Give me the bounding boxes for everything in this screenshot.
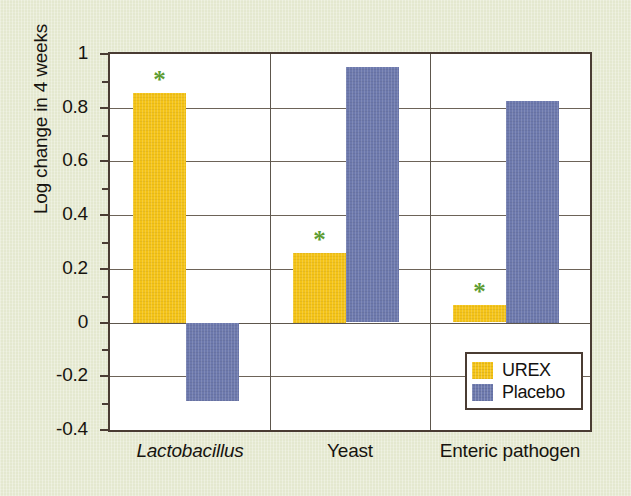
y-tick-label: 0 <box>0 311 88 333</box>
bar-urex-enteric-pathogen <box>453 305 506 322</box>
chart-figure: Log change in 4 weeks -0.4-0.200.20.40.6… <box>0 0 631 496</box>
y-tick-minor <box>102 349 108 351</box>
bar-placebo-lactobacillus <box>186 323 239 401</box>
y-tick-label: 0.4 <box>0 203 88 225</box>
y-tick-major <box>100 107 108 109</box>
y-tick-major <box>100 214 108 216</box>
bar-placebo-enteric-pathogen <box>506 101 559 323</box>
bar-placebo-yeast <box>346 67 399 322</box>
bar-urex-lactobacillus <box>133 93 186 323</box>
y-tick-major <box>100 322 108 324</box>
significance-star-yeast: * <box>293 227 346 252</box>
bar-urex-yeast <box>293 253 346 323</box>
y-tick-minor <box>102 135 108 137</box>
legend-item-urex: UREX <box>472 359 575 381</box>
y-tick-label: -0.2 <box>0 364 88 386</box>
legend-swatch-urex-icon <box>472 362 493 379</box>
group-separator <box>430 54 431 430</box>
y-tick-minor <box>102 403 108 405</box>
legend-swatch-placebo-icon <box>472 384 493 401</box>
gridline <box>110 323 590 324</box>
legend-label-urex: UREX <box>502 361 551 379</box>
x-category-label: Yeast <box>270 440 430 462</box>
y-tick-minor <box>102 242 108 244</box>
y-tick-major <box>100 429 108 431</box>
y-tick-label: 0.6 <box>0 149 88 171</box>
y-tick-label: 1 <box>0 42 88 64</box>
y-tick-label: 0.2 <box>0 257 88 279</box>
significance-star-lactobacillus: * <box>133 67 186 92</box>
y-axis-title: Log change in 4 weeks <box>30 0 52 269</box>
significance-star-enteric-pathogen: * <box>453 279 506 304</box>
y-tick-label: 0.8 <box>0 96 88 118</box>
y-tick-minor <box>102 296 108 298</box>
legend-item-placebo: Placebo <box>472 381 575 403</box>
legend-label-placebo: Placebo <box>502 383 565 401</box>
chart-legend: UREX Placebo <box>465 352 583 410</box>
y-tick-major <box>100 160 108 162</box>
y-tick-label: -0.4 <box>0 418 88 440</box>
y-tick-minor <box>102 81 108 83</box>
y-tick-major <box>100 53 108 55</box>
x-category-label: Enteric pathogen <box>430 440 590 462</box>
y-tick-major <box>100 375 108 377</box>
y-tick-minor <box>102 188 108 190</box>
x-category-label: Lactobacillus <box>110 440 270 462</box>
y-tick-major <box>100 268 108 270</box>
group-separator <box>270 54 271 430</box>
